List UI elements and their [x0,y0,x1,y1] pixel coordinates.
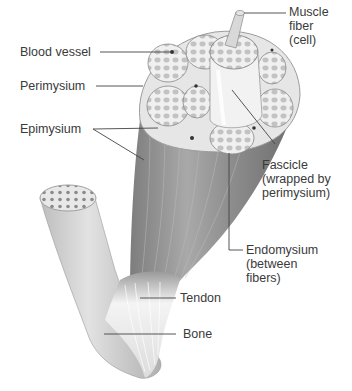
label-bone: Bone [183,327,212,341]
fascicle-1 [148,44,188,82]
label-muscle-fiber: Muscle fiber (cell) [289,5,329,47]
label-epimysium: Epimysium [20,122,81,136]
label-endomysium: Endomysium (between fibers) [246,243,318,285]
label-fascicle: Fascicle (wrapped by perimysium) [262,158,331,200]
label-blood-vessel: Blood vessel [20,45,91,59]
label-tendon: Tendon [180,291,221,305]
fascicle-6 [257,89,293,127]
extracted-fascicle [210,11,262,128]
muscle-cross-section [139,11,300,155]
label-perimysium: Perimysium [20,79,85,93]
leader-epimysium-2 [93,129,144,160]
fascicle-7 [258,52,286,84]
fascicle-4 [183,86,211,118]
fascicle-2 [147,86,189,126]
muscle-structure-diagram: Muscle fiber (cell) Blood vessel Perimys… [0,0,352,391]
